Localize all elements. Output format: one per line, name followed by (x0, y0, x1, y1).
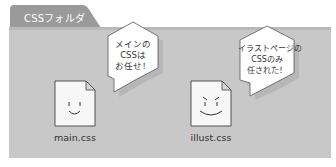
folder-tab-label: CSSフォルダ (24, 10, 85, 25)
file-icon-illust-css[interactable] (191, 81, 231, 126)
bubble-line: イラストページの (238, 43, 296, 54)
bubble-line: お任せ！ (108, 61, 158, 72)
bubble-line: メインの (108, 39, 158, 50)
file-name-main-css: main.css (45, 132, 105, 143)
bubble-line: 任された！ (238, 65, 296, 76)
file-name-illust-css: illust.css (181, 132, 241, 143)
speech-bubble-text-1: メインの CSSは お任せ！ (108, 39, 158, 72)
speech-bubble-text-2: イラストページの CSSのみ 任された！ (238, 43, 296, 76)
bubble-line: CSSのみ (238, 54, 296, 65)
bubble-line: CSSは (108, 50, 158, 61)
file-icon-main-css[interactable] (55, 81, 95, 126)
